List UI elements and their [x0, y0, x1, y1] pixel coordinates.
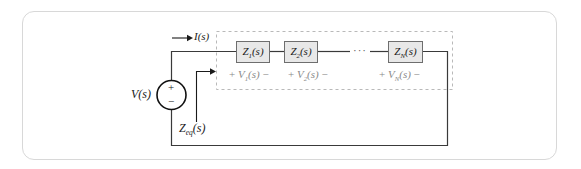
- current-arrow-head: [187, 35, 193, 41]
- circuit-schematic: [0, 0, 581, 169]
- voltage-label-2: + V2(s) −: [288, 69, 328, 83]
- source-label: V(s): [131, 88, 151, 100]
- impedance-block-2-label: Z2(s): [290, 45, 311, 59]
- voltage-label-1: + V1(s) −: [229, 69, 269, 83]
- zeq-arrow-shaft: [197, 72, 211, 123]
- equivalent-impedance-label: Zeq(s): [179, 122, 205, 137]
- impedance-block-1-label: Z1(s): [242, 45, 263, 59]
- impedance-block-n: ZN(s): [388, 41, 423, 63]
- source-plus-sign: +: [168, 82, 174, 93]
- zeq-arrow-head: [210, 68, 216, 74]
- figure-canvas: Z1(s) Z2(s) ZN(s) ··· + V1(s) − + V2(s) …: [0, 0, 581, 169]
- current-label: I(s): [194, 31, 209, 42]
- return-wire: [172, 52, 448, 146]
- impedance-block-n-label: ZN(s): [394, 45, 416, 59]
- impedance-block-2: Z2(s): [284, 41, 318, 63]
- voltage-label-n: + VN(s) −: [379, 69, 420, 83]
- series-ellipsis: ···: [353, 44, 367, 56]
- source-minus-sign: −: [168, 96, 174, 107]
- impedance-block-1: Z1(s): [236, 41, 270, 63]
